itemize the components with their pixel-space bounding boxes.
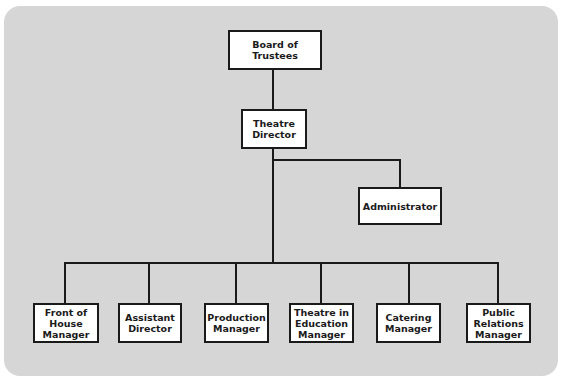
node-theatre-in-education-manager: Theatre in Education Manager — [289, 303, 354, 343]
node-catering-manager: Catering Manager — [376, 303, 441, 343]
connector-admin-branch — [272, 159, 401, 161]
node-public-relations-manager: Public Relations Manager — [466, 303, 531, 343]
connector-drop-tie — [320, 262, 322, 303]
node-production-manager: Production Manager — [204, 303, 269, 343]
node-administrator: Administrator — [358, 187, 442, 225]
connector-board-director — [272, 69, 274, 109]
connector-drop-production — [235, 262, 237, 303]
node-assistant-director: Assistant Director — [118, 303, 182, 343]
connector-drop-catering — [408, 262, 410, 303]
node-theatre-director: Theatre Director — [241, 109, 307, 149]
connector-director-trunk — [272, 148, 274, 264]
node-front-of-house-manager: Front of House Manager — [33, 303, 99, 343]
connector-manager-bus — [64, 262, 499, 264]
connector-admin-drop — [399, 159, 401, 187]
node-board-of-trustees: Board of Trustees — [228, 30, 322, 70]
connector-drop-pr — [497, 262, 499, 303]
connector-drop-assistant — [148, 262, 150, 303]
connector-drop-front — [64, 262, 66, 303]
